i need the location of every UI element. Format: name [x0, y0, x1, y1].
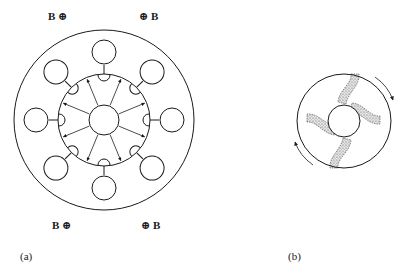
- central-hub-circle: [89, 105, 119, 135]
- panel-a-caption: (a): [20, 250, 32, 262]
- field-label-top-right: ⊕ B: [139, 10, 158, 23]
- outer-boundary-circle: [14, 30, 194, 210]
- panel-b-diagram: [295, 74, 393, 168]
- field-label-bottom-right: ⊕ B: [141, 219, 160, 232]
- field-label-bottom-left: B ⊕: [52, 219, 71, 232]
- figure-canvas: [0, 0, 405, 273]
- panel-a-diagram: [14, 30, 194, 210]
- inner-ring-circle: [58, 74, 150, 166]
- field-label-top-left: B ⊕: [48, 10, 67, 23]
- panel-b-caption: (b): [288, 250, 301, 262]
- rotor-hub-circle: [328, 105, 360, 137]
- radial-arrows: [63, 79, 144, 160]
- bulb-chambers: [24, 40, 184, 200]
